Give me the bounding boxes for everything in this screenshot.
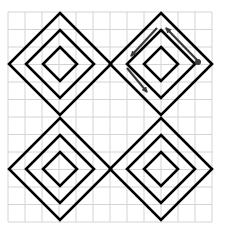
diamond-pattern-diagram <box>0 0 228 238</box>
start-dot-icon <box>195 59 201 65</box>
